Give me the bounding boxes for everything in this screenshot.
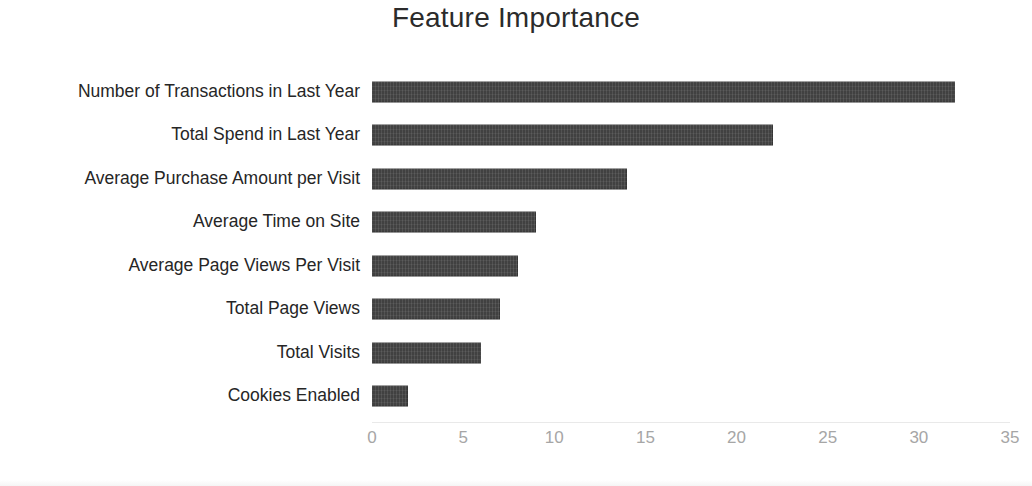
x-tick-label: 25 [798,428,858,448]
category-label: Total Spend in Last Year [171,127,360,145]
x-tick-label: 5 [433,428,493,448]
bar-row: Number of Transactions in Last Year [0,70,1032,114]
bar [372,168,627,189]
category-label: Total Visits [277,344,360,362]
bar-track [372,386,408,407]
bar-row: Total Visits [0,331,1032,375]
bar-track [372,168,627,189]
x-tick-label: 20 [707,428,767,448]
bar [372,299,500,320]
bar-row: Average Purchase Amount per Visit [0,157,1032,201]
category-label: Number of Transactions in Last Year [78,83,360,101]
x-axis-tick-labels: 05101520253035 [0,428,1032,458]
x-tick-label: 30 [889,428,949,448]
bar [372,342,481,363]
x-tick-label: 0 [342,428,402,448]
bar-track [372,125,773,146]
bar-row: Total Page Views [0,288,1032,332]
x-tick-label: 35 [980,428,1032,448]
bar-track [372,299,500,320]
bar-row: Cookies Enabled [0,375,1032,419]
chart-title: Feature Importance [0,2,1032,34]
bar-row: Total Spend in Last Year [0,114,1032,158]
x-axis-line [372,422,1010,423]
feature-importance-chart: Feature Importance Number of Transaction… [0,0,1032,486]
category-label: Average Time on Site [193,214,360,232]
bar [372,125,773,146]
x-tick-label: 10 [524,428,584,448]
bar [372,212,536,233]
category-label: Average Page Views Per Visit [128,257,360,275]
category-label: Average Purchase Amount per Visit [84,170,360,188]
x-tick-label: 15 [615,428,675,448]
bar-track [372,81,955,102]
scan-edge-shading [0,480,1032,486]
bar [372,386,408,407]
bar [372,255,518,276]
bar-row: Average Time on Site [0,201,1032,245]
bar-track [372,212,536,233]
category-label: Cookies Enabled [228,388,360,406]
bar-row: Average Page Views Per Visit [0,244,1032,288]
bar [372,81,955,102]
bar-track [372,255,518,276]
bar-track [372,342,481,363]
category-label: Total Page Views [226,301,360,319]
plot-area: Number of Transactions in Last YearTotal… [0,62,1032,422]
